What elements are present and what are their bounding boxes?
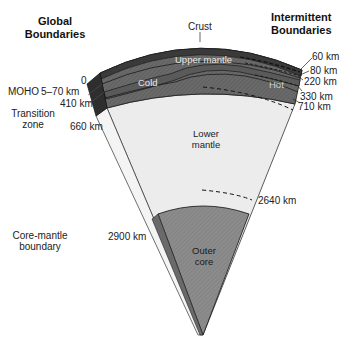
moho-label: MOHO	[8, 86, 39, 97]
depth-80-label: 80 km	[310, 65, 337, 76]
transition-zone-label: Transition zone	[8, 108, 58, 130]
label-line: mantle	[186, 139, 226, 150]
depth-710-label: 710 km	[298, 101, 331, 112]
label-line: Lower	[186, 128, 226, 139]
label-line: core	[186, 256, 222, 267]
hot-label: Hot	[269, 79, 284, 90]
lower-mantle-label: Lower mantle	[186, 128, 226, 150]
label-line: zone	[8, 119, 58, 130]
depth-60-label: 60 km	[312, 51, 339, 62]
header-line: Intermittent	[271, 11, 332, 24]
surface-depth-label: 0	[81, 75, 87, 86]
label-line: Outer	[186, 245, 222, 256]
global-boundaries-header: Global Boundaries	[20, 15, 90, 41]
depth-220-label: 220 km	[304, 76, 337, 87]
label-line: Transition	[8, 108, 58, 119]
crust-label: Crust	[188, 21, 212, 32]
depth-2900-label: 2900 km	[108, 231, 146, 242]
core-mantle-boundary-label: Core-mantle boundary	[12, 230, 68, 252]
label-line: Core-mantle	[12, 230, 68, 241]
cold-label: Cold	[138, 77, 158, 88]
header-line: Global	[20, 15, 90, 28]
depth-660-label: 660 km	[70, 121, 103, 132]
depth-2640-label: 2640 km	[258, 195, 296, 206]
intermittent-boundaries-header: Intermittent Boundaries	[271, 11, 332, 37]
upper-mantle-label: Upper mantle	[175, 54, 232, 65]
outer-core-label: Outer core	[186, 245, 222, 267]
earth-cross-section-diagram	[0, 0, 349, 346]
header-line: Boundaries	[20, 28, 90, 41]
header-line: Boundaries	[271, 24, 332, 37]
label-line: boundary	[12, 241, 68, 252]
depth-410-label: 410 km	[60, 98, 93, 109]
moho-depth-label: 5–70 km	[41, 86, 79, 97]
